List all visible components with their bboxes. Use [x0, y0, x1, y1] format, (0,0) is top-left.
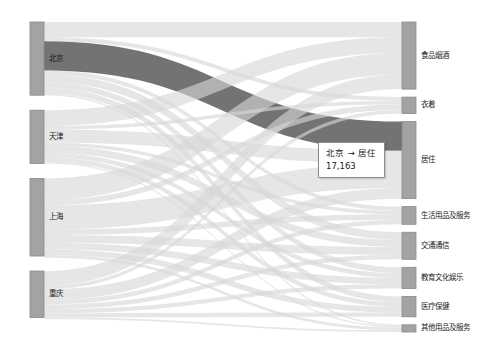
sankey-chart: 北京天津上海重庆食品烟酒衣着居住生活用品及服务交通通信教育文化娱乐医疗保健其他用…: [0, 0, 501, 342]
tooltip-title: 北京 → 居住: [326, 147, 377, 159]
sankey-node-target[interactable]: [402, 325, 416, 332]
sankey-node-source[interactable]: [30, 178, 44, 256]
sankey-node-target[interactable]: [402, 267, 416, 288]
sankey-node-source[interactable]: [30, 271, 44, 318]
sankey-node-target[interactable]: [402, 97, 416, 113]
sankey-node-source[interactable]: [30, 22, 44, 95]
node-label: 上海: [49, 211, 64, 221]
node-label: 交通通信: [421, 240, 450, 250]
sankey-svg: 北京天津上海重庆食品烟酒衣着居住生活用品及服务交通通信教育文化娱乐医疗保健其他用…: [0, 0, 501, 342]
node-label: 食品烟酒: [421, 50, 450, 60]
link-tooltip: 北京 → 居住 17,163: [318, 142, 385, 178]
sankey-node-target[interactable]: [402, 296, 416, 316]
sankey-link[interactable]: [44, 313, 402, 318]
sankey-link[interactable]: [44, 317, 402, 332]
node-label: 天津: [49, 132, 64, 141]
sankey-node-target[interactable]: [402, 207, 416, 225]
tooltip-value: 17,163: [326, 160, 377, 172]
node-label: 重庆: [49, 288, 64, 298]
sankey-node-target[interactable]: [402, 22, 416, 89]
node-label: 生活用品及服务: [421, 210, 471, 220]
node-label: 居住: [421, 154, 436, 164]
sankey-node-target[interactable]: [402, 122, 416, 199]
sankey-node-source[interactable]: [30, 110, 44, 163]
sankey-node-target[interactable]: [402, 232, 416, 259]
node-label: 医疗保健: [421, 301, 450, 311]
sankey-link[interactable]: [44, 22, 402, 37]
node-label: 衣着: [421, 99, 435, 109]
node-label: 北京: [49, 53, 64, 63]
node-label: 其他用品及服务: [421, 322, 471, 332]
node-label: 教育文化娱乐: [421, 272, 464, 282]
